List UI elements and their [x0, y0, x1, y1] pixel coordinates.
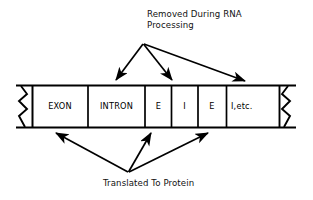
segment-label-intron-2: I	[171, 101, 198, 111]
arrow-to-intron-1	[116, 44, 143, 80]
exon-pointer-arrows	[56, 133, 208, 172]
segment-label-intron-1: INTRON	[88, 101, 145, 111]
intron-pointer-arrows	[116, 44, 245, 81]
diagram-canvas: Removed During RNA Processing Translated…	[0, 0, 313, 200]
segment-label-exon-1: EXON	[32, 101, 88, 111]
arrow-to-exon-1	[56, 133, 128, 172]
zigzag-break-icon-right	[282, 86, 290, 127]
diagram-vector-layer	[0, 0, 313, 200]
segment-label-exon-3: E	[198, 101, 226, 111]
zigzag-break-icon-left	[19, 86, 27, 127]
arrow-to-exon-3	[129, 133, 208, 172]
segment-label-intron-3: I,etc.	[231, 101, 275, 111]
segment-label-exon-2: E	[145, 101, 172, 111]
